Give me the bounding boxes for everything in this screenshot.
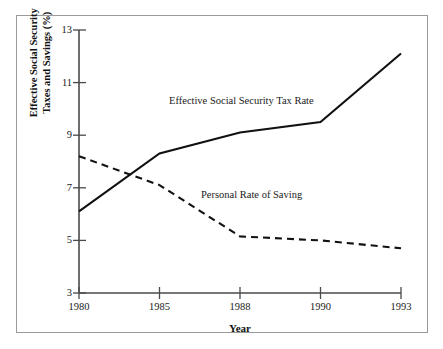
series-line-rate-of-saving: [79, 156, 401, 248]
y-tick-label-3: 3: [56, 288, 72, 299]
series-line-tax-rate: [79, 54, 401, 212]
chart-figure: 13 11 9 7 5 3 1980 1985 1988 1990 1993 E…: [0, 0, 443, 349]
y-tick-label-5: 5: [56, 235, 72, 246]
x-tick-label-1985: 1985: [149, 302, 170, 313]
y-axis-title-line1: Effective Social Security: [28, 0, 41, 148]
y-axis-title-line2: Taxes and Savings (%): [41, 0, 54, 148]
x-tick-label-1993: 1993: [391, 302, 412, 313]
series-label-rate-of-saving: Personal Rate of Saving: [201, 190, 302, 201]
y-tick-label-7: 7: [56, 183, 72, 194]
x-tick-label-1990: 1990: [310, 302, 331, 313]
x-tick-label-1980: 1980: [69, 302, 90, 313]
y-tick-label-13: 13: [56, 25, 72, 36]
x-tick-label-1988: 1988: [230, 302, 251, 313]
y-axis-title: Effective Social Security Taxes and Savi…: [28, 0, 54, 148]
x-axis-title: Year: [79, 322, 401, 334]
y-tick-label-9: 9: [56, 130, 72, 141]
y-tick-label-11: 11: [56, 77, 72, 88]
series-label-tax-rate: Effective Social Security Tax Rate: [169, 96, 314, 107]
